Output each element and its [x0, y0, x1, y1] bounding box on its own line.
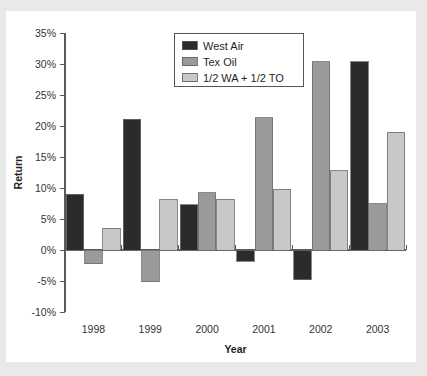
bar	[387, 132, 405, 250]
bar	[198, 193, 216, 250]
x-tick-label: 2003	[366, 323, 390, 335]
bar	[273, 189, 291, 250]
bar	[369, 204, 387, 251]
bar	[217, 199, 235, 250]
legend-label: Tex Oil	[203, 56, 237, 68]
legend-swatch	[182, 41, 197, 50]
bar	[294, 250, 312, 280]
y-tick-label: 10%	[35, 182, 56, 194]
legend-swatch	[182, 57, 197, 66]
bar	[180, 205, 198, 250]
bar	[103, 228, 121, 250]
legend-swatch	[182, 73, 197, 82]
y-axis-title: Return	[12, 156, 24, 190]
x-tick-label: 2000	[195, 323, 219, 335]
bar	[85, 250, 103, 264]
bar	[351, 62, 369, 250]
bar	[255, 118, 272, 250]
bar	[237, 250, 255, 261]
x-tick-label: 2001	[252, 323, 276, 335]
y-tick-label: 0%	[41, 244, 56, 256]
y-tick-label: -10%	[31, 306, 56, 318]
legend-label: West Air	[203, 40, 244, 52]
y-tick-label: -5%	[37, 275, 56, 287]
y-tick-label: 25%	[35, 89, 56, 101]
bar-chart: 35%30%25%20%15%10%5%0%-5%-10%19981999200…	[6, 11, 416, 362]
plot-area: 35%30%25%20%15%10%5%0%-5%-10%19981999200…	[6, 11, 416, 362]
figure-root: 35%30%25%20%15%10%5%0%-5%-10%19981999200…	[0, 0, 427, 376]
x-tick-label: 1998	[82, 323, 106, 335]
y-tick-label: 35%	[35, 27, 56, 39]
legend-label: 1/2 WA + 1/2 TO	[203, 72, 284, 84]
x-tick-label: 2002	[309, 323, 333, 335]
bar	[312, 62, 330, 250]
clipped-top-text	[0, 0, 427, 11]
y-tick-label: 5%	[41, 213, 56, 225]
y-tick-label: 30%	[35, 58, 56, 70]
bar	[66, 194, 84, 250]
x-tick-label: 1999	[139, 323, 163, 335]
x-axis-title: Year	[224, 343, 246, 355]
bar	[330, 171, 348, 250]
bar	[160, 200, 178, 250]
chart-panel: 35%30%25%20%15%10%5%0%-5%-10%19981999200…	[6, 11, 416, 362]
y-tick-label: 15%	[35, 151, 56, 163]
y-tick-label: 20%	[35, 120, 56, 132]
bar	[142, 250, 160, 282]
bar	[123, 119, 141, 250]
